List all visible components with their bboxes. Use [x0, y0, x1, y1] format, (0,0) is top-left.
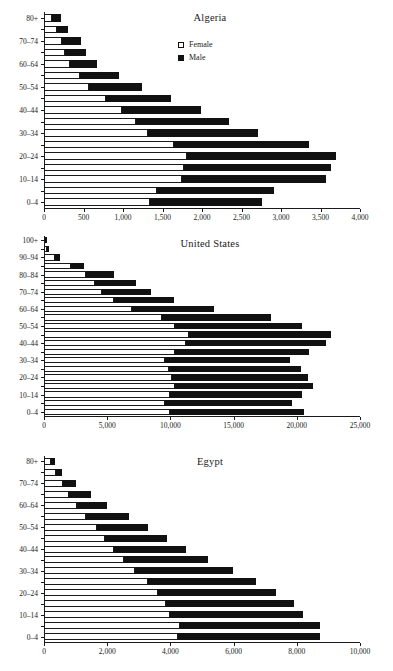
y-axis-tick [41, 156, 44, 157]
y-axis-tick [41, 593, 44, 594]
x-axis-tick [234, 417, 235, 420]
y-axis-tick [41, 582, 44, 583]
bar-segment-female [44, 633, 178, 640]
bar-segment-male [122, 106, 201, 114]
plot-area-united-states: 0–410–1420–2430–3440–4450–5460–6470–7480… [44, 236, 360, 416]
x-axis-label: 3,000 [273, 213, 290, 222]
x-axis-label: 4,000 [162, 647, 179, 656]
bar-segment-male [102, 289, 151, 295]
y-axis-tick [41, 412, 44, 413]
y-axis-tick [41, 494, 44, 495]
y-axis-label: 80–84 [19, 270, 38, 279]
bar-segment-male [166, 600, 294, 607]
bar-segment-male [170, 409, 304, 415]
y-axis-tick [41, 352, 44, 353]
y-axis-tick [41, 309, 44, 310]
bar-segment-male [71, 263, 84, 269]
y-axis-tick [41, 538, 44, 539]
x-axis-label: 500 [78, 213, 89, 222]
bar-segment-male [169, 366, 300, 372]
y-axis-tick [41, 604, 44, 605]
bar-segment-female [44, 611, 170, 618]
bar-segment-female [44, 331, 189, 337]
bar-segment-female [44, 374, 172, 380]
x-axis-tick [281, 209, 282, 212]
bar-segment-male [136, 118, 229, 126]
y-axis-label: 50–54 [19, 82, 38, 91]
plot-area-egypt: 0–410–1420–2430–3440–4450–5460–6470–7480… [44, 456, 360, 642]
bar-segment-male [135, 567, 233, 574]
bar-segment-male [105, 535, 167, 542]
x-axis-tick [123, 209, 124, 212]
bar-segment-female [44, 198, 150, 206]
y-axis-tick [41, 472, 44, 473]
y-axis-label: 20–24 [19, 588, 38, 597]
bar-segment-male [165, 400, 292, 406]
bar-segment-male [80, 72, 119, 80]
bar-segment-male [186, 340, 327, 346]
y-axis-label: 60–64 [19, 501, 38, 510]
bar-segment-female [44, 391, 170, 397]
bar-segment-male [86, 271, 113, 277]
x-axis-label: 10,000 [160, 421, 181, 430]
bar-segment-female [44, 323, 175, 329]
bar-segment-female [44, 49, 65, 57]
bar-segment-male [158, 589, 276, 596]
bar-segment-female [44, 187, 157, 195]
x-axis-label: 2,000 [194, 213, 211, 222]
bar-segment-male [77, 502, 107, 509]
y-axis-tick [41, 266, 44, 267]
y-axis-label: 0–4 [27, 407, 38, 416]
y-axis-label: 70–74 [19, 479, 38, 488]
bar-segment-male [172, 374, 308, 380]
bar-segment-male [157, 187, 274, 195]
x-axis-tick [297, 643, 298, 646]
bar-segment-male [57, 26, 68, 34]
bar-segment-female [44, 589, 158, 596]
bar-segment-male [65, 49, 86, 57]
bar-segment-male [170, 611, 303, 618]
y-axis-tick [41, 386, 44, 387]
x-axis-label: 2,500 [233, 213, 250, 222]
bar-segment-male [56, 469, 63, 476]
bar-segment-female [44, 263, 71, 269]
y-axis-tick [41, 52, 44, 53]
bar-segment-male [187, 152, 336, 160]
y-axis-tick [41, 549, 44, 550]
y-axis-tick [41, 75, 44, 76]
bar-segment-female [44, 306, 132, 312]
bar-segment-female [44, 600, 166, 607]
x-axis-tick [360, 417, 361, 420]
y-axis-tick [41, 626, 44, 627]
y-axis-label: 0–4 [27, 632, 38, 641]
y-axis-tick [41, 292, 44, 293]
bar-segment-female [44, 556, 124, 563]
y-axis-tick [41, 168, 44, 169]
bar-segment-female [44, 340, 186, 346]
y-axis-tick [41, 637, 44, 638]
bar-segment-male [89, 83, 141, 91]
y-axis-tick [41, 179, 44, 180]
y-axis-label: 70–74 [19, 36, 38, 45]
bar-segment-female [44, 383, 175, 389]
bar-segment-female [44, 118, 136, 126]
y-axis-label: 10–14 [19, 610, 38, 619]
x-axis-tick [321, 209, 322, 212]
x-axis-tick [107, 643, 108, 646]
y-axis-tick [41, 18, 44, 19]
y-axis-tick [41, 29, 44, 30]
bar-segment-female [44, 152, 187, 160]
y-axis-tick [41, 283, 44, 284]
y-axis-tick [41, 483, 44, 484]
y-axis-tick [41, 317, 44, 318]
x-axis-tick [44, 209, 45, 212]
y-axis-tick [41, 335, 44, 336]
x-axis-tick [107, 417, 108, 420]
x-axis-tick [360, 643, 361, 646]
x-axis-tick [242, 209, 243, 212]
y-axis-tick [41, 571, 44, 572]
y-axis-tick [41, 395, 44, 396]
x-axis-tick [170, 417, 171, 420]
y-axis-tick [41, 343, 44, 344]
x-axis-label: 1,500 [154, 213, 171, 222]
